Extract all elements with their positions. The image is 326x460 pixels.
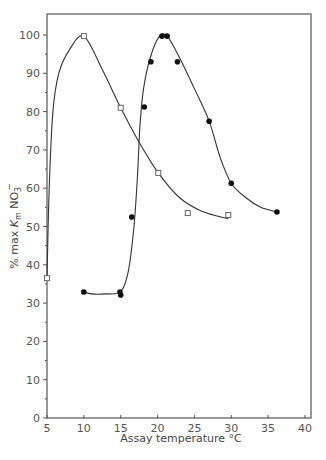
y-tick-label: 50 bbox=[26, 221, 40, 234]
y-tick-label: 20 bbox=[26, 335, 40, 348]
x-tick-label: 35 bbox=[261, 422, 275, 435]
plot-frame bbox=[47, 14, 311, 418]
x-tick-label: 40 bbox=[298, 422, 312, 435]
y-tick-label: 100 bbox=[19, 29, 40, 42]
filled-circle-marker bbox=[118, 292, 124, 298]
y-tick-label: 90 bbox=[26, 67, 40, 80]
filled-circle-marker bbox=[164, 33, 170, 39]
filled-circle-marker bbox=[81, 289, 87, 295]
y-axis-ticks: 0102030405060708090100 bbox=[19, 29, 47, 425]
filled-circle-marker bbox=[274, 209, 280, 215]
open-square-marker bbox=[156, 170, 161, 175]
open-square-curve bbox=[47, 36, 228, 279]
y-tick-label: 40 bbox=[26, 259, 40, 272]
filled-circle-marker bbox=[159, 33, 165, 39]
open-square-marker bbox=[226, 213, 231, 218]
y-tick-label: 60 bbox=[26, 182, 40, 195]
plot-border bbox=[47, 14, 311, 418]
y-tick-label: 30 bbox=[26, 297, 40, 310]
filled-circle-marker bbox=[175, 59, 181, 65]
x-tick-label: 5 bbox=[44, 422, 51, 435]
y-axis-title: % max Km NO3− bbox=[4, 183, 23, 268]
chart: 0102030405060708090100 510152025303540 A… bbox=[0, 0, 326, 460]
filled-circle-marker bbox=[228, 180, 234, 186]
filled-circle-marker bbox=[141, 104, 147, 110]
y-tick-label: 0 bbox=[33, 412, 40, 425]
open-square-marker bbox=[185, 211, 190, 216]
x-axis-title: Assay temperature °C bbox=[120, 432, 242, 445]
filled-circle-marker bbox=[206, 118, 212, 124]
filled-circle-curve bbox=[81, 34, 277, 294]
open-square-marker bbox=[118, 105, 123, 110]
y-tick-label: 10 bbox=[26, 374, 40, 387]
x-tick-label: 10 bbox=[77, 422, 91, 435]
y-tick-label: 80 bbox=[26, 106, 40, 119]
fitted-curves bbox=[47, 34, 277, 294]
filled-circle-marker bbox=[148, 59, 154, 65]
y-tick-label: 70 bbox=[26, 144, 40, 157]
open-square-marker bbox=[45, 276, 50, 281]
open-square-marker bbox=[81, 34, 86, 39]
data-markers bbox=[45, 33, 280, 298]
filled-circle-marker bbox=[129, 214, 135, 220]
